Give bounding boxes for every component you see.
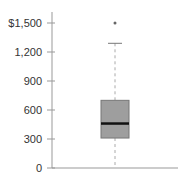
y-axis: 03006009001,200$1,500 — [8, 12, 55, 174]
box-plot-chart: 03006009001,200$1,500 — [0, 0, 184, 183]
y-tick-label: 300 — [24, 133, 42, 145]
y-tick-label: 900 — [24, 75, 42, 87]
y-tick-label: $1,500 — [8, 17, 42, 29]
y-tick-label: 1,200 — [14, 46, 42, 58]
iqr-box — [101, 100, 129, 138]
y-ticks: 03006009001,200$1,500 — [8, 17, 55, 174]
outlier-point — [114, 22, 117, 25]
box-group — [101, 22, 129, 169]
y-tick-label: 0 — [36, 162, 42, 174]
y-tick-label: 600 — [24, 104, 42, 116]
